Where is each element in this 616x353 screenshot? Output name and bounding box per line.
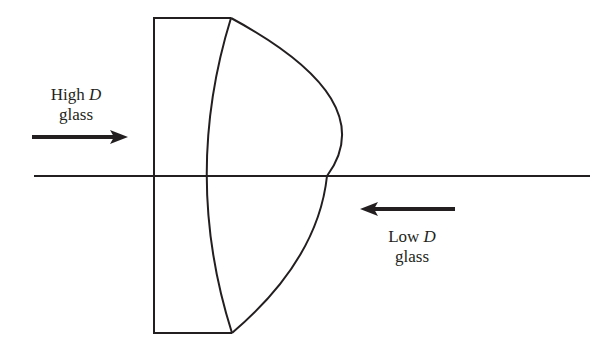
lens-diagram: High D glass Low D glass bbox=[0, 0, 616, 353]
high-d-arrow bbox=[32, 130, 128, 144]
lens-drawing bbox=[0, 0, 616, 353]
low-d-glass-label: Low D glass bbox=[374, 227, 450, 267]
low-d-arrow bbox=[360, 202, 455, 216]
high-d-glass-label: High D glass bbox=[38, 85, 114, 125]
